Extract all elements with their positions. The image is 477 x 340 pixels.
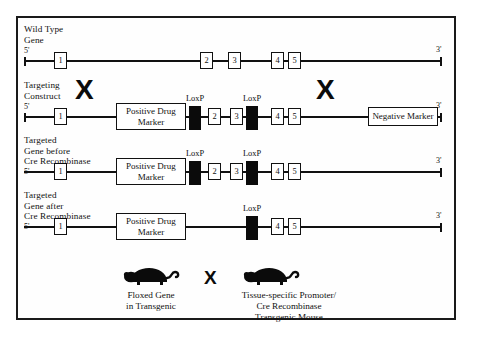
- row3-exon-3: 3: [230, 163, 243, 180]
- row1-exon-4: 4: [271, 52, 284, 69]
- row2-positive-drug-marker: Positive Drug Marker: [116, 103, 186, 130]
- row3-loxp-site-left: [189, 161, 201, 185]
- row-label-targeted-before-cre: Targeted Gene before Cre Recombinase: [24, 135, 91, 167]
- row2-exon-2: 2: [208, 108, 221, 125]
- row2-exon-5: 5: [288, 108, 301, 125]
- row1-five-prime-label: 5': [24, 46, 29, 55]
- row2-five-prime-cap: [24, 113, 26, 122]
- row3-exon-4: 4: [271, 163, 284, 180]
- row4-loxp-label: LoxP: [232, 204, 272, 213]
- row4-exon-4: 4: [271, 218, 284, 235]
- mouse-icon-cre: [240, 266, 302, 292]
- row4-three-prime-label: 3': [436, 211, 441, 220]
- row3-positive-drug-marker: Positive Drug Marker: [116, 158, 186, 185]
- row-label-wild-type: Wild Type Gene: [24, 24, 63, 45]
- row3-exon-5: 5: [288, 163, 301, 180]
- row3-exon-1: 1: [54, 163, 67, 180]
- row2-loxp-label-right: LoxP: [232, 94, 272, 103]
- row2-five-prime-label: 5': [24, 102, 29, 111]
- row3-three-prime-label: 3': [436, 156, 441, 165]
- row4-backbone: [24, 226, 442, 228]
- row-label-targeting-construct: Targeting Construct: [24, 80, 61, 101]
- row4-three-prime-cap: [440, 223, 442, 232]
- row1-exon-2: 2: [200, 52, 213, 69]
- row3-exon-2: 2: [208, 163, 221, 180]
- row1-exon-3: 3: [228, 52, 241, 69]
- mouse-icon-floxed: [120, 266, 182, 292]
- row-label-targeted-after-cre: Targeted Gene after Cre Recombinase: [24, 190, 91, 222]
- row2-exon-3: 3: [230, 108, 243, 125]
- row3-three-prime-cap: [440, 168, 442, 177]
- gene-targeting-diagram: Wild Type Gene 5' 3' 1 2 3 4 5 Targeting…: [0, 0, 477, 340]
- row4-loxp-site: [246, 216, 258, 240]
- row2-exon-4: 4: [271, 108, 284, 125]
- row4-exon-5: 5: [288, 218, 301, 235]
- row3-loxp-site-right: [246, 161, 258, 185]
- cross-symbol-mating: X: [204, 268, 217, 287]
- mouse-caption-floxed: Floxed Gene in Transgenic: [98, 290, 204, 312]
- row2-loxp-label-left: LoxP: [175, 94, 215, 103]
- cross-symbol-right: X: [316, 76, 335, 104]
- row2-three-prime-cap: [440, 113, 442, 122]
- row4-positive-drug-marker: Positive Drug Marker: [116, 213, 186, 240]
- row1-five-prime-cap: [24, 57, 26, 66]
- diagram-frame: Wild Type Gene 5' 3' 1 2 3 4 5 Targeting…: [16, 16, 456, 320]
- row2-negative-marker: Negative Marker: [368, 107, 438, 126]
- row3-loxp-label-right: LoxP: [232, 149, 272, 158]
- row1-three-prime-cap: [440, 57, 442, 66]
- cross-symbol-left: X: [75, 76, 94, 104]
- row2-exon-1: 1: [54, 108, 67, 125]
- row1-exon-1: 1: [54, 52, 67, 69]
- mouse-caption-cre: Tissue-specific Promoter/ Cre Recombinas…: [214, 290, 364, 323]
- row4-exon-1: 1: [54, 218, 67, 235]
- row1-three-prime-label: 3': [436, 45, 441, 54]
- row1-exon-5: 5: [288, 52, 301, 69]
- row2-loxp-site-left: [189, 106, 201, 130]
- row3-loxp-label-left: LoxP: [175, 149, 215, 158]
- row2-loxp-site-right: [246, 106, 258, 130]
